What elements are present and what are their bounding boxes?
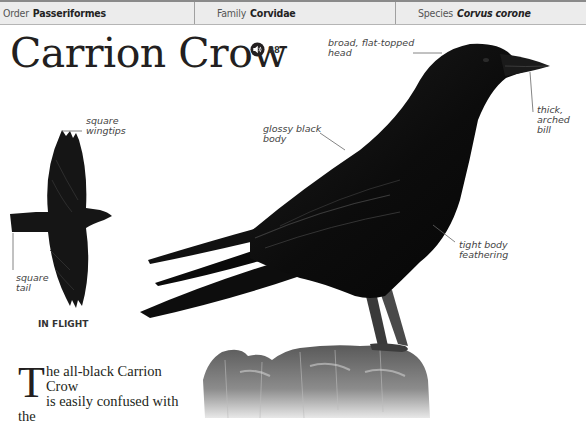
perched-crow (140, 44, 550, 318)
annotation-body: glossy black body (263, 124, 321, 144)
leader-bill (530, 72, 533, 112)
leader-body (320, 133, 345, 150)
rock-stump (203, 345, 430, 418)
drop-cap: T (18, 365, 45, 401)
intro-paragraph: T he all-black Carrion Crow is easily co… (18, 364, 188, 424)
annotation-head: broad, flat-topped head (328, 38, 414, 58)
annotation-bill: thick, arched bill (537, 105, 570, 135)
annotation-feathering: tight body feathering (459, 240, 508, 260)
annotation-wingtips: square wingtips (86, 116, 126, 136)
annotation-tail: square tail (16, 273, 49, 293)
crow-legs (365, 290, 408, 352)
in-flight-caption: IN FLIGHT (38, 319, 88, 329)
